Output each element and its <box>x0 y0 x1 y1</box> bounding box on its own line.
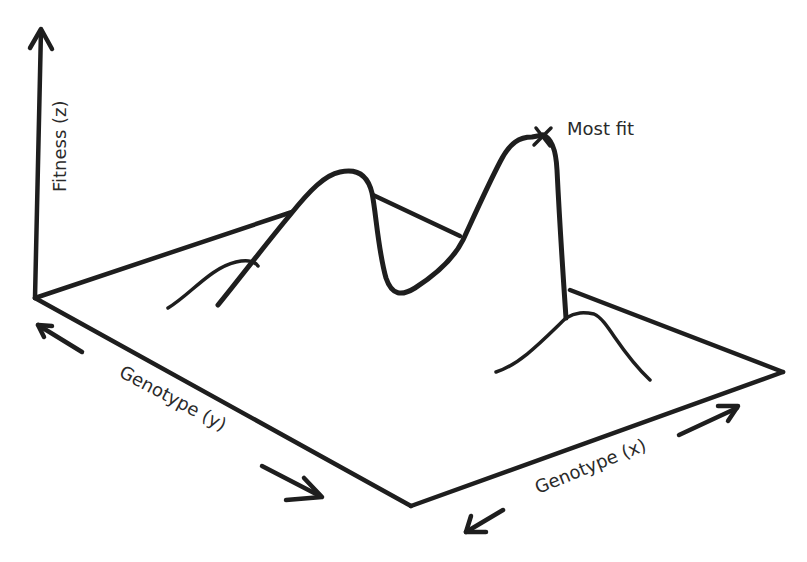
arrow-y-back-icon <box>38 325 82 352</box>
fitness-surface <box>168 128 650 380</box>
arrow-x-back-icon <box>466 510 503 532</box>
fitness-axis-label: Fitness (z) <box>49 100 70 192</box>
arrow-x-forward-icon <box>679 406 738 435</box>
most-fit-label: Most fit <box>567 118 634 139</box>
arrow-y-forward-icon <box>262 466 322 500</box>
genotype-plane <box>35 195 783 506</box>
fitness-landscape-diagram: Fitness (z) Genotype (y) Genotype (x) Mo… <box>0 0 807 562</box>
